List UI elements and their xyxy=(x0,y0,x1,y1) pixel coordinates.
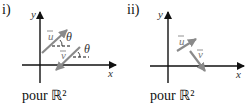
theta-v: θ xyxy=(84,42,90,56)
vector-v: v xyxy=(190,48,205,71)
caption-ii: pour ℝ² xyxy=(150,87,194,104)
svg-text:y: y xyxy=(30,8,36,20)
vector-v: v θ xyxy=(56,42,90,70)
svg-text:u: u xyxy=(179,35,185,47)
panel-i: i) y x u θ v xyxy=(0,0,125,107)
axes: y x xyxy=(150,8,244,83)
panel-ii: ii) y x u v pour ℝ² xyxy=(125,0,250,107)
vector-u: u xyxy=(177,35,196,51)
svg-text:u: u xyxy=(48,30,54,42)
svg-text:x: x xyxy=(235,68,241,80)
svg-text:x: x xyxy=(107,67,113,79)
svg-text:y: y xyxy=(157,8,163,20)
caption-i: pour ℝ² xyxy=(22,87,66,104)
theta-u: θ xyxy=(66,30,72,44)
vector-u: u θ xyxy=(42,30,72,53)
